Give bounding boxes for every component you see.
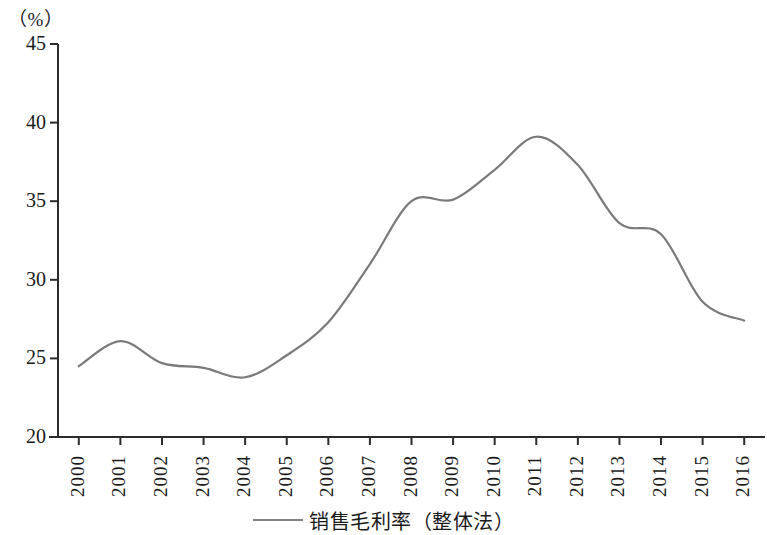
x-axis-tick-label: 2015	[692, 455, 711, 497]
x-axis-tick-label: 2002	[151, 455, 170, 497]
x-axis-tick-label: 2014	[650, 455, 669, 497]
x-axis-tick-label: 2005	[276, 455, 295, 497]
x-axis-tick-label: 2010	[484, 455, 503, 497]
x-axis-tick-label: 2013	[608, 455, 627, 497]
x-axis-tick-label: 2016	[733, 455, 752, 497]
x-axis-tick-label: 2006	[317, 455, 336, 497]
chart-legend: 销售毛利率（整体法）	[0, 505, 767, 535]
x-axis-tick-label: 2009	[442, 455, 461, 497]
x-axis-tick-label: 2001	[109, 455, 128, 497]
x-axis-tick-label: 2004	[234, 455, 253, 497]
x-axis-tick-label: 2012	[567, 455, 586, 497]
line-chart: （%） 202530354045 20002001200220032004200…	[0, 0, 767, 535]
x-axis-tick-label: 2000	[68, 455, 87, 497]
x-axis-tick-label: 2008	[401, 455, 420, 497]
x-axis-tick-labels: 2000200120022003200420052006200720082009…	[0, 0, 767, 535]
x-axis-tick-label: 2003	[193, 455, 212, 497]
x-axis-tick-label: 2011	[525, 455, 544, 496]
legend-label: 销售毛利率（整体法）	[309, 506, 514, 535]
legend-line-marker	[253, 519, 303, 521]
x-axis-tick-label: 2007	[359, 455, 378, 497]
